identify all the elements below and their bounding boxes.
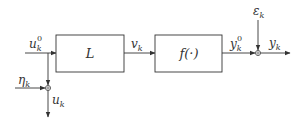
linear-block-label: L bbox=[85, 46, 95, 61]
block-diagram: L f(·) uk0 ηk uk vk yk0 εk yk bbox=[0, 0, 298, 120]
input-summing-junction bbox=[45, 85, 50, 90]
measured-output-label: yk bbox=[268, 36, 281, 52]
input-noise-label: ηk bbox=[18, 73, 30, 89]
measured-input-label: uk bbox=[52, 93, 65, 109]
input-label: uk0 bbox=[29, 34, 42, 53]
output-noise-label: εk bbox=[253, 4, 264, 20]
output-summing-junction bbox=[255, 50, 260, 55]
nonlinear-block-label: f(·) bbox=[178, 46, 198, 61]
intermediate-label: vk bbox=[131, 37, 143, 53]
noise-free-output-label: yk0 bbox=[229, 34, 242, 53]
